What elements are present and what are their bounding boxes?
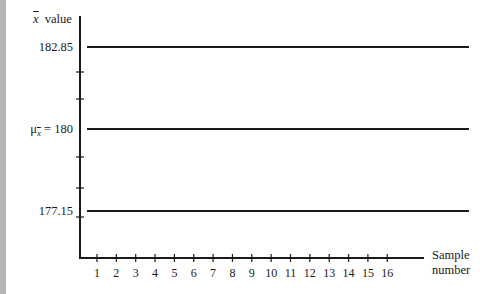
y-axis-title: x value bbox=[33, 13, 72, 26]
x-axis-title-line2: number bbox=[432, 263, 470, 278]
x-tick-label: 9 bbox=[242, 267, 262, 279]
x-tick-label: 4 bbox=[145, 267, 165, 279]
x-axis-title: Sample number bbox=[432, 248, 470, 278]
center-value: = 180 bbox=[44, 122, 73, 136]
x-tick-label: 5 bbox=[164, 267, 184, 279]
x-tick-label: 10 bbox=[261, 267, 281, 279]
mu-symbol: μ bbox=[30, 122, 37, 136]
x-tick-label: 1 bbox=[87, 267, 107, 279]
x-tick-label: 16 bbox=[377, 267, 397, 279]
x-tick-label: 2 bbox=[106, 267, 126, 279]
x-tick-label: 7 bbox=[203, 267, 223, 279]
x-tick-label: 3 bbox=[126, 267, 146, 279]
center-line-label: μx = 180 bbox=[0, 123, 73, 138]
x-tick-label: 14 bbox=[339, 267, 359, 279]
x-tick-label: 6 bbox=[184, 267, 204, 279]
lower-limit-label: 177.15 bbox=[0, 205, 73, 218]
control-chart bbox=[0, 0, 494, 294]
y-axis-word: value bbox=[45, 12, 72, 26]
x-axis-title-line1: Sample bbox=[432, 248, 470, 263]
x-tick-label: 13 bbox=[319, 267, 339, 279]
mu-subscript: x bbox=[37, 128, 41, 138]
x-tick-label: 12 bbox=[300, 267, 320, 279]
x-tick-label: 11 bbox=[281, 267, 301, 279]
x-tick-label: 15 bbox=[358, 267, 378, 279]
x-bar-symbol: x bbox=[33, 12, 39, 26]
x-tick-label: 8 bbox=[222, 267, 242, 279]
upper-limit-label: 182.85 bbox=[0, 41, 73, 54]
